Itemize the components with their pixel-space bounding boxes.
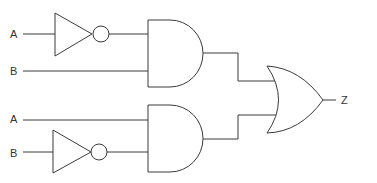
input-label-b-bottom: B (10, 147, 17, 159)
input-label-b-top: B (10, 65, 17, 77)
input-label-a-top: A (10, 28, 18, 40)
not-gate-top (55, 13, 92, 56)
output-label-z: Z (341, 94, 348, 106)
logic-circuit-diagram: A B A B Z (0, 0, 377, 183)
not-bubble-bottom (91, 144, 107, 160)
and-gate-top (148, 20, 203, 87)
wire-and1-to-or (203, 53, 278, 81)
input-label-a-bottom: A (10, 113, 18, 125)
and-gate-bottom (148, 105, 203, 172)
not-bubble-top (93, 26, 109, 42)
or-gate (267, 66, 323, 133)
wire-and2-to-or (203, 115, 278, 139)
not-gate-bottom (53, 130, 91, 173)
